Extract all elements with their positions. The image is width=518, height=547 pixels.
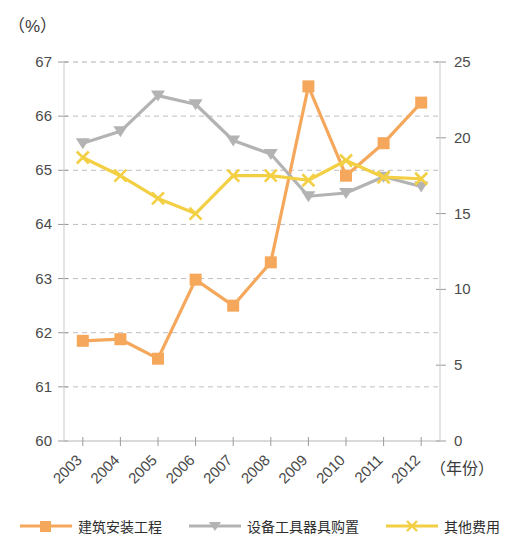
x-axis-tick-label: 2007 [200, 451, 236, 487]
data-point-triangle [76, 138, 90, 149]
data-point-square [265, 256, 277, 268]
legend-item-other[interactable]: 其他费用 [385, 516, 500, 536]
data-point-square [302, 80, 314, 92]
line-chart-plot: 6061626364656667 0510152025 200320042005… [0, 0, 518, 510]
x-axis-tick-label: 2008 [237, 451, 273, 487]
left-axis-tick-label: 64 [35, 215, 52, 232]
right-axis-tick-label: 15 [454, 205, 471, 222]
right-axis-tick-label: 5 [454, 356, 462, 373]
legend-item-construction[interactable]: 建筑安装工程 [19, 516, 162, 536]
chart-legend: 建筑安装工程 设备工具器具购置 其他费用 [0, 516, 518, 536]
legend-label-construction: 建筑安装工程 [78, 516, 162, 536]
series-line [83, 96, 421, 197]
left-axis-tick-label: 65 [35, 161, 52, 178]
x-axis-tick-labels: 2003200420052006200720082009201020112012 [49, 451, 423, 487]
data-point-square [190, 274, 202, 286]
x-axis-tick-label: 2011 [351, 451, 386, 486]
legend-marker-square-icon [19, 518, 73, 534]
legend-item-equipment[interactable]: 设备工具器具购置 [188, 516, 359, 536]
x-axis-tick-label: 2009 [275, 451, 311, 487]
data-point-square [340, 170, 352, 182]
right-axis-tick-label: 20 [454, 129, 471, 146]
left-axis-tick-label: 61 [35, 378, 52, 395]
right-axis-tick-label: 10 [454, 280, 471, 297]
left-axis-tick-labels: 6061626364656667 [35, 53, 52, 449]
right-axis-tick-label: 0 [454, 432, 462, 449]
left-axis-tick-label: 67 [35, 53, 52, 70]
left-axis-tick-label: 60 [35, 432, 52, 449]
data-point-square [415, 97, 427, 109]
legend-marker-triangle-icon [188, 518, 242, 534]
data-point-square [114, 333, 126, 345]
x-axis-title: （年份） [430, 455, 494, 479]
axis-lines-group [58, 62, 446, 446]
data-point-cross [77, 152, 89, 164]
data-point-square [77, 335, 89, 347]
series-line [83, 158, 421, 214]
legend-marker-cross-icon [385, 518, 439, 534]
legend-label-other: 其他费用 [444, 516, 500, 536]
data-point-square [227, 300, 239, 312]
x-axis-tick-label: 2004 [87, 451, 123, 487]
series-2 [76, 91, 428, 203]
data-series-group [76, 80, 428, 364]
x-axis-tick-label: 2010 [313, 451, 349, 487]
legend-label-equipment: 设备工具器具购置 [247, 516, 359, 536]
data-point-cross [114, 170, 126, 182]
left-axis-tick-label: 63 [35, 270, 52, 287]
x-axis-tick-label: 2006 [162, 451, 198, 487]
chart-container: （%） 6061626364656667 0510152025 20032004… [0, 0, 518, 547]
left-axis-tick-label: 66 [35, 107, 52, 124]
x-axis-tick-label: 2003 [49, 451, 85, 487]
data-point-square [152, 353, 164, 365]
series-3 [77, 152, 427, 220]
right-axis-tick-label: 25 [454, 53, 471, 70]
x-axis-tick-label: 2012 [388, 451, 424, 487]
x-axis-tick-label: 2005 [125, 451, 161, 487]
data-point-square [378, 137, 390, 149]
right-axis-tick-labels: 0510152025 [454, 53, 471, 449]
series-line [83, 86, 421, 358]
left-axis-tick-label: 62 [35, 324, 52, 341]
data-point-cross [340, 155, 352, 167]
